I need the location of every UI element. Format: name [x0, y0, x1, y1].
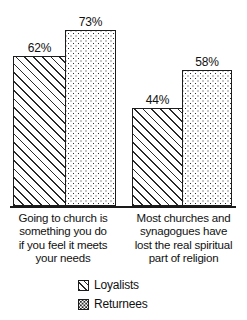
chart-legend: Loyalists Returnees: [0, 276, 247, 314]
bar-returnees-1[interactable]: 73%: [65, 30, 116, 206]
legend-item-loyalists[interactable]: Loyalists: [0, 276, 247, 295]
category-label-line: part of religion: [124, 252, 243, 265]
bar-value-label: 73%: [79, 16, 102, 29]
category-label-line: synagogues have: [124, 225, 243, 238]
bar-value-label: 62%: [28, 42, 51, 55]
plot-area: 62% 73% 44% 58%: [0, 0, 247, 210]
legend-item-returnees[interactable]: Returnees: [0, 295, 247, 314]
bar-group-2: 44% 58%: [132, 30, 232, 206]
grouped-bar-chart: 62% 73% 44% 58% Going to church is somet…: [0, 0, 247, 320]
category-label-line: something you do: [4, 225, 122, 238]
dots-swatch-icon: [78, 299, 89, 310]
category-label-line: your needs: [4, 252, 122, 265]
category-label-line: Going to church is: [4, 212, 122, 225]
legend-item-label: Loyalists: [94, 279, 139, 292]
category-label-1: Going to church is something you do if y…: [4, 212, 122, 266]
category-label-2: Most churches and synagogues have lost t…: [124, 212, 243, 266]
category-label-line: if you feel it meets: [4, 239, 122, 252]
bar-group-1: 62% 73%: [13, 30, 116, 206]
axis-baseline: [10, 206, 236, 208]
category-labels: Going to church is something you do if y…: [0, 212, 247, 270]
bar-loyalists-1[interactable]: 62%: [13, 56, 66, 206]
bar-returnees-2[interactable]: 58%: [182, 70, 232, 206]
legend-item-label: Returnees: [94, 298, 148, 311]
hatch-swatch-icon: [78, 280, 89, 291]
category-label-line: Most churches and: [124, 212, 243, 225]
bar-value-label: 58%: [195, 56, 218, 69]
category-label-line: lost the real spiritual: [124, 239, 243, 252]
bar-loyalists-2[interactable]: 44%: [132, 108, 183, 206]
bar-value-label: 44%: [146, 94, 169, 107]
